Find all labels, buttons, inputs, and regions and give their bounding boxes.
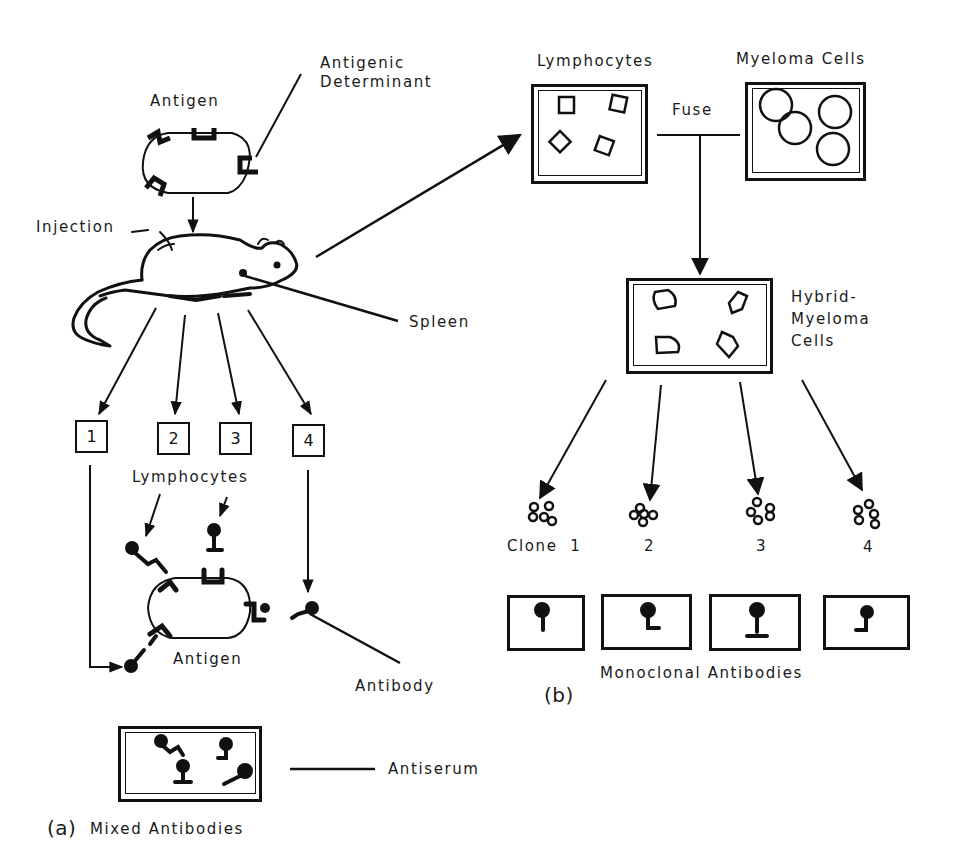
antigen-cell-top — [143, 128, 258, 196]
monoclonal-box-4 — [823, 595, 910, 650]
monoclonal-box-3 — [709, 594, 801, 651]
clone-2-cells — [630, 504, 657, 526]
clone-1-cells — [529, 502, 556, 525]
mouse-to-lymphocytes-arrow — [316, 135, 520, 257]
clone-2-label: 2 — [644, 537, 655, 556]
hybridoma-diagram: 1 2 3 4 Antigen Antigenic Determinant In… — [0, 0, 958, 865]
clone-3-cells — [747, 498, 774, 524]
panel-a-label: (a) — [47, 816, 76, 841]
hybrid-myeloma-dish — [626, 278, 773, 374]
spleen-leader-line — [245, 276, 398, 321]
mouse-drawing — [73, 230, 297, 346]
injection-label: Injection — [36, 218, 115, 237]
clone-3-label: 3 — [756, 537, 767, 556]
lymphocyte-antibody-arrows — [90, 465, 308, 667]
myeloma-cells-label: Myeloma Cells — [736, 50, 866, 69]
lymphocyte-box-1: 1 — [75, 420, 108, 453]
clone-clusters — [529, 498, 879, 528]
lymphocyte-box-4: 4 — [292, 424, 325, 457]
antigenic-determinant-label: Antigenic Determinant — [320, 54, 432, 92]
lymphocyte-box-3: 3 — [219, 422, 252, 455]
myeloma-cells-dish — [745, 82, 866, 181]
antibody-label: Antibody — [355, 677, 435, 696]
monoclonal-box-1 — [507, 595, 585, 651]
monoclonal-antibody-glyphs — [536, 604, 872, 636]
spleen-label: Spleen — [409, 313, 470, 332]
fuse-connector — [657, 135, 740, 274]
determinant-leader-line — [256, 74, 301, 157]
antibody-leader-line — [310, 614, 400, 663]
hybrid-line-2: Myeloma — [791, 309, 870, 331]
lymphocytes-dish-label: Lymphocytes — [537, 52, 653, 71]
mouse-eye — [274, 262, 281, 269]
monoclonal-antibodies-label: Monoclonal Antibodies — [600, 664, 803, 683]
antiserum-label: Antiserum — [388, 760, 480, 779]
hybrid-line-1: Hybrid- — [791, 287, 870, 309]
monoclonal-box-2 — [601, 594, 692, 650]
mixed-antibodies-label: Mixed Antibodies — [90, 820, 244, 839]
clone-number-1: 1 — [570, 537, 581, 555]
spleen-lymphocyte-arrows — [99, 308, 311, 414]
mixed-antibodies-dish — [118, 726, 262, 802]
lymphocytes-label: Lymphocytes — [132, 468, 248, 487]
clone-4-label: 4 — [863, 538, 874, 557]
lymphocytes-dish — [531, 84, 648, 184]
panel-b-label: (b) — [544, 683, 574, 708]
hybrid-line-3: Cells — [791, 331, 870, 353]
clone-arrows — [540, 380, 862, 500]
clone-prefix: Clone — [507, 537, 558, 555]
lymphocyte-box-2: 2 — [157, 422, 190, 455]
fuse-label: Fuse — [672, 101, 713, 120]
clone-1-label: Clone 1 — [507, 537, 581, 556]
antigenic-determinant-line-2: Determinant — [320, 73, 432, 92]
bound-antigen-label: Antigen — [173, 650, 242, 669]
antigen-label: Antigen — [150, 92, 219, 111]
clone-4-cells — [854, 500, 879, 528]
antigenic-determinant-line-1: Antigenic — [320, 54, 432, 73]
hybrid-myeloma-label: Hybrid- Myeloma Cells — [791, 287, 870, 352]
